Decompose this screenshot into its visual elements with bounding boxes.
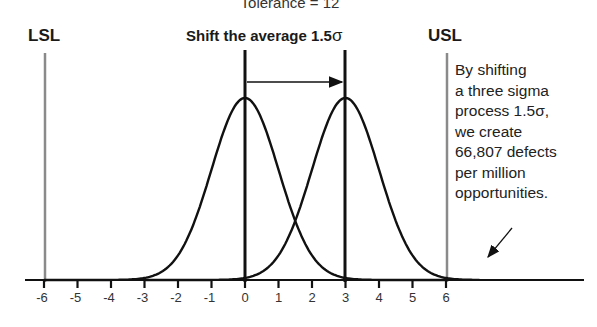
annotation-line: process 1.5σ, (455, 101, 595, 122)
tick-label: -4 (94, 290, 124, 305)
tick-label: 6 (431, 290, 461, 305)
tick-label: -3 (128, 290, 158, 305)
tick-label: -1 (195, 290, 225, 305)
annotation-line: 66,807 defects (455, 142, 595, 163)
annotation-line: By shifting (455, 60, 595, 81)
tick-label: -6 (27, 290, 57, 305)
annotation-line: per million (455, 163, 595, 184)
annotation-line: a three sigma (455, 81, 595, 102)
tick-label: 0 (230, 290, 260, 305)
tick-label: 2 (297, 290, 327, 305)
annotation-pointer-arrow (488, 228, 512, 257)
tick-label: 1 (264, 290, 294, 305)
tick-label: 4 (364, 290, 394, 305)
annotation-line: we create (455, 122, 595, 143)
defects-annotation: By shifting a three sigma process 1.5σ, … (455, 60, 595, 204)
annotation-line: opportunities. (455, 183, 595, 204)
tick-label: 3 (331, 290, 361, 305)
shifted-distribution-curve (145, 98, 480, 280)
tick-label: -2 (161, 290, 191, 305)
tick-label: -5 (61, 290, 91, 305)
tick-label: 5 (398, 290, 428, 305)
